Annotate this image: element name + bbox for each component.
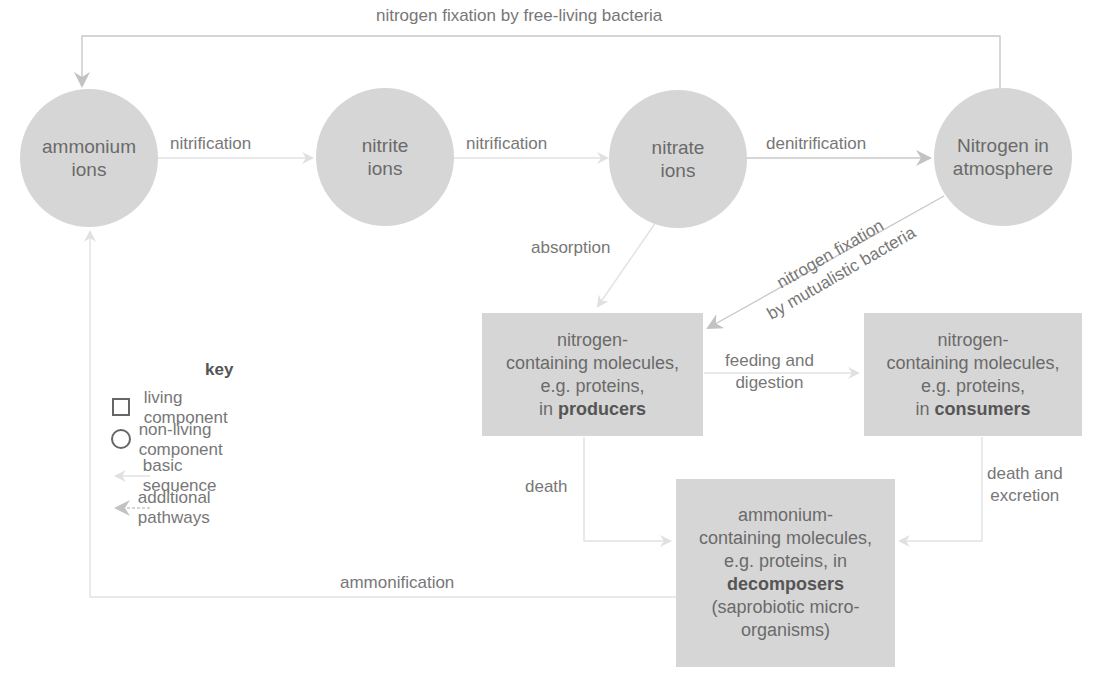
node-label: in: [539, 399, 558, 419]
label-nitrification-2: nitrification: [466, 134, 547, 154]
node-label-bold: producers: [558, 399, 646, 419]
node-label: ions: [368, 158, 403, 179]
node-label: (saprobiotic micro-: [711, 597, 859, 617]
node-label-bold: consumers: [934, 399, 1030, 419]
legend-label: non-living component: [139, 420, 238, 460]
arrow-death: [584, 437, 670, 541]
label-line: excretion: [990, 486, 1059, 505]
node-label: Nitrogen in: [957, 135, 1049, 156]
node-label: organisms): [741, 620, 830, 640]
node-label: nitrite: [362, 135, 408, 156]
label-nitrification-1: nitrification: [170, 134, 251, 154]
node-producers: nitrogen- containing molecules, e.g. pro…: [482, 313, 703, 436]
node-label: ammonium-: [738, 505, 833, 525]
legend-item-non-living: non-living component: [110, 428, 238, 452]
node-label-bold: decomposers: [727, 574, 844, 594]
node-label: containing molecules,: [886, 353, 1059, 373]
label-line: digestion: [735, 373, 803, 392]
node-label: containing molecules,: [506, 353, 679, 373]
node-label: ions: [72, 159, 107, 180]
label-line: death and: [987, 464, 1063, 483]
legend-item-additional-pathways: additional pathways: [110, 496, 227, 520]
square-icon: [112, 398, 130, 416]
label-line: feeding and: [725, 351, 814, 370]
node-label: nitrate: [652, 137, 705, 158]
node-label: nitrogen-: [937, 330, 1008, 350]
label-ammonification: ammonification: [340, 573, 454, 593]
node-label: e.g. proteins,: [540, 376, 644, 396]
label-absorption: absorption: [531, 238, 610, 258]
label-free-living-fixation: nitrogen fixation by free-living bacteri…: [376, 6, 662, 26]
label-death-excretion: death and excretion: [987, 463, 1063, 507]
legend-label: additional pathways: [138, 488, 227, 528]
node-nitrate-ions: nitrateions: [609, 90, 747, 228]
arrow-free-living-fixation: [82, 36, 1000, 88]
node-nitrogen-atmosphere: Nitrogen inatmosphere: [934, 88, 1072, 226]
legend-item-basic-sequence: basic sequence: [110, 464, 228, 488]
node-label: e.g. proteins,: [921, 376, 1025, 396]
node-consumers: nitrogen- containing molecules, e.g. pro…: [864, 313, 1082, 436]
legend-item-living: living component: [110, 396, 238, 420]
label-death: death: [525, 477, 568, 497]
circle-icon: [111, 429, 131, 449]
node-ammonium-ions: ammoniumions: [20, 89, 158, 227]
node-nitrite-ions: nitriteions: [316, 88, 454, 226]
node-label: in: [915, 399, 934, 419]
label-denitrification: denitrification: [766, 134, 866, 154]
node-label: e.g. proteins, in: [724, 551, 847, 571]
label-feeding-digestion: feeding and digestion: [725, 350, 814, 394]
node-label: ammonium: [42, 136, 136, 157]
legend-title: key: [205, 360, 233, 380]
node-label: ions: [661, 160, 696, 181]
node-decomposers: ammonium- containing molecules, e.g. pro…: [676, 479, 895, 667]
arrow-death-excretion: [900, 437, 982, 541]
node-label: atmosphere: [953, 158, 1053, 179]
node-label: containing molecules,: [699, 528, 872, 548]
arrow-absorption: [598, 222, 656, 306]
nitrogen-cycle-diagram: ammoniumions nitriteions nitrateions Nit…: [0, 0, 1105, 683]
node-label: nitrogen-: [557, 330, 628, 350]
